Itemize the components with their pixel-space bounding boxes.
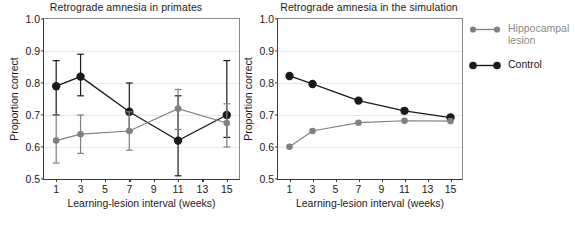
x-axis-tick xyxy=(81,179,82,182)
data-point-lesion-week-11 xyxy=(401,117,408,124)
legend-marker-hippocampal-lesion xyxy=(468,24,502,35)
x-axis-tick-label-3: 3 xyxy=(310,184,316,195)
x-axis-tick xyxy=(129,179,130,182)
x-axis-title-primates: Learning-lesion interval (weeks) xyxy=(44,197,239,209)
x-axis-tick xyxy=(178,179,179,182)
series-line-control xyxy=(56,77,227,141)
x-axis-tick-label-11: 11 xyxy=(173,184,184,195)
legend-label-control: Control xyxy=(508,58,575,70)
data-point-control-week-1 xyxy=(285,72,293,80)
panel-simulation: Retrograde amnesia in the simulation Lea… xyxy=(250,0,485,233)
x-axis-tick-label-5: 5 xyxy=(333,184,339,195)
x-axis-tick xyxy=(405,179,406,182)
y-axis-tick-label-0.7: 0.7 xyxy=(259,110,274,121)
x-axis-tick xyxy=(313,179,314,182)
y-axis-tick-label-0.5: 0.5 xyxy=(259,174,274,185)
x-axis-tick xyxy=(202,179,203,182)
y-axis-tick-label-0.5: 0.5 xyxy=(25,174,40,185)
x-axis-tick xyxy=(428,179,429,182)
x-axis-tick xyxy=(105,179,106,182)
legend-item-hippocampal-lesion: Hippocampal lesion xyxy=(468,22,575,46)
data-point-control-week-11 xyxy=(400,107,408,115)
data-point-control-week-3 xyxy=(308,80,316,88)
data-point-lesion-week-11 xyxy=(175,105,182,112)
x-axis-tick-label-1: 1 xyxy=(287,184,293,195)
y-axis-tick-label-0.9: 0.9 xyxy=(25,46,40,57)
figure-container: Retrograde amnesia in primates Learning-… xyxy=(0,0,575,233)
x-axis-tick-label-11: 11 xyxy=(399,184,410,195)
series-layer-simulation xyxy=(278,19,462,179)
data-point-lesion-week-15 xyxy=(447,118,454,125)
y-axis-tick-label-0.7: 0.7 xyxy=(25,110,40,121)
data-point-control-week-1 xyxy=(52,82,60,90)
plot-area-simulation: Learning-lesion interval (weeks) Proport… xyxy=(277,18,463,180)
x-axis-tick-label-3: 3 xyxy=(78,184,84,195)
y-axis-tick-label-0.8: 0.8 xyxy=(25,78,40,89)
data-point-lesion-week-3 xyxy=(77,131,84,138)
x-axis-tick-label-7: 7 xyxy=(356,184,362,195)
data-point-lesion-week-1 xyxy=(286,143,293,150)
panel-title-simulation: Retrograde amnesia in the simulation xyxy=(264,1,474,13)
error-bars-lesion xyxy=(53,89,230,163)
x-axis-tick-label-9: 9 xyxy=(151,184,157,195)
x-axis-tick xyxy=(382,179,383,182)
y-axis-tick-label-0.6: 0.6 xyxy=(259,142,274,153)
x-axis-tick xyxy=(336,179,337,182)
data-point-control-week-11 xyxy=(174,136,182,144)
x-axis-title-simulation: Learning-lesion interval (weeks) xyxy=(278,197,462,209)
x-axis-tick-label-13: 13 xyxy=(422,184,434,195)
y-axis-tick-label-1.0: 1.0 xyxy=(259,14,274,25)
legend: Hippocampal lesion Control xyxy=(468,22,575,82)
x-axis-tick xyxy=(451,179,452,182)
x-axis-tick-label-13: 13 xyxy=(197,184,209,195)
data-point-lesion-week-15 xyxy=(224,120,231,127)
x-axis-tick xyxy=(154,179,155,182)
y-axis-tick-label-0.9: 0.9 xyxy=(259,46,274,57)
y-axis-title-simulation: Proportion correct xyxy=(242,49,254,149)
legend-marker-control xyxy=(468,60,502,71)
panel-title-primates: Retrograde amnesia in primates xyxy=(8,1,244,13)
data-point-lesion-week-1 xyxy=(53,137,60,144)
series-layer-primates xyxy=(44,19,239,179)
data-point-lesion-week-7 xyxy=(126,128,133,135)
data-point-lesion-week-3 xyxy=(309,128,316,135)
x-axis-tick xyxy=(290,179,291,182)
x-axis-tick-label-5: 5 xyxy=(102,184,108,195)
y-axis-title-primates: Proportion correct xyxy=(8,49,20,149)
plot-area-primates: Learning-lesion interval (weeks) Proport… xyxy=(43,18,240,180)
x-axis-tick xyxy=(359,179,360,182)
legend-item-control: Control xyxy=(468,58,575,70)
x-axis-tick-label-1: 1 xyxy=(53,184,59,195)
y-axis-tick-label-0.8: 0.8 xyxy=(259,78,274,89)
x-axis-tick-label-15: 15 xyxy=(445,184,457,195)
panel-primates: Retrograde amnesia in primates Learning-… xyxy=(0,0,262,233)
data-point-lesion-week-7 xyxy=(355,119,362,126)
y-axis-tick-label-0.6: 0.6 xyxy=(25,142,40,153)
x-axis-tick-label-15: 15 xyxy=(221,184,233,195)
data-point-control-week-7 xyxy=(354,96,362,104)
data-point-control-week-3 xyxy=(76,72,84,80)
legend-label-hippocampal-lesion: Hippocampal lesion xyxy=(508,22,575,46)
x-axis-tick-label-9: 9 xyxy=(379,184,385,195)
x-axis-tick-label-7: 7 xyxy=(126,184,132,195)
x-axis-tick xyxy=(56,179,57,182)
x-axis-tick xyxy=(227,179,228,182)
y-axis-tick-label-1.0: 1.0 xyxy=(25,14,40,25)
